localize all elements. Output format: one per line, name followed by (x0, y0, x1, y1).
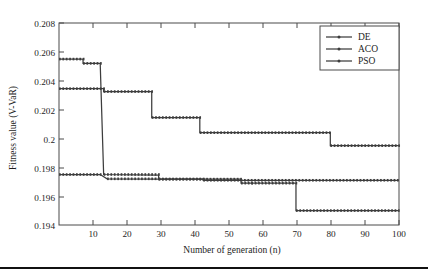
series-marker-dot-icon (79, 87, 81, 90)
series-marker-dot-icon (62, 87, 64, 90)
series-marker-dot-icon (295, 131, 297, 134)
series-marker-dot-icon (141, 178, 143, 181)
series-marker-dot-icon (312, 179, 314, 182)
series-marker-dot-icon (134, 173, 136, 176)
series-marker-dot-icon (261, 131, 263, 134)
series-marker-dot-icon (186, 178, 188, 181)
series-marker-dot-icon (347, 144, 349, 147)
series-marker-dot-icon (86, 87, 88, 90)
series-marker-dot-icon (114, 178, 116, 181)
series-marker-dot-icon (360, 179, 362, 182)
series-marker-dot-icon (378, 209, 380, 212)
series-marker-dot-icon (69, 173, 71, 176)
series-marker-dot-icon (93, 173, 95, 176)
series-marker-dot-icon (392, 144, 394, 147)
series-marker-dot-icon (96, 173, 98, 176)
series-marker-dot-icon (268, 131, 270, 134)
y-tick-label: 0.204 (34, 77, 55, 87)
series-marker-dot-icon (155, 178, 157, 181)
series-marker-dot-icon (196, 116, 198, 119)
series-marker-dot-icon (336, 179, 338, 182)
series-marker-dot-icon (384, 209, 386, 212)
y-tick-label: 0.198 (34, 164, 55, 174)
series-marker-dot-icon (117, 173, 119, 176)
y-tick-label: 0.2 (44, 135, 56, 145)
series-marker-dot-icon (230, 178, 232, 181)
series-marker-dot-icon (346, 179, 348, 182)
series-marker-dot-icon (329, 179, 331, 182)
series-marker-dot-icon (151, 173, 153, 176)
x-tick-label: 50 (224, 229, 234, 239)
series-marker-dot-icon (107, 178, 109, 181)
series-marker-dot-icon (73, 87, 75, 90)
series-marker-dot-icon (391, 209, 393, 212)
x-tick-label: 70 (292, 229, 302, 239)
series-marker-dot-icon (73, 173, 75, 176)
series-marker-dot-icon (76, 173, 78, 176)
series-marker-dot-icon (76, 58, 78, 61)
y-tick-label: 0.196 (34, 193, 55, 203)
series-marker-dot-icon (388, 144, 390, 147)
series-marker-dot-icon (90, 173, 92, 176)
series-marker-dot-icon (288, 131, 290, 134)
series-marker-dot-icon (305, 131, 307, 134)
series-marker-dot-icon (244, 179, 246, 182)
series-marker-dot-icon (326, 131, 328, 134)
y-tick-marks (59, 23, 64, 197)
series-marker-dot-icon (309, 131, 311, 134)
series-marker-dot-icon (377, 179, 379, 182)
series-marker-dot-icon (159, 178, 161, 181)
series-marker-dot-icon (268, 182, 270, 185)
series-marker-dot-icon (83, 87, 85, 90)
x-tick-label: 10 (88, 229, 98, 239)
series-marker-dot-icon (127, 178, 129, 181)
series-marker-dot-icon (248, 182, 250, 185)
y-tick-label: 0.194 (34, 221, 55, 231)
data-series-layer (59, 58, 400, 212)
series-marker-dot-icon (165, 116, 167, 119)
series-marker-dot-icon (255, 182, 257, 185)
series-marker-dot-icon (210, 178, 212, 181)
series-markers-de (59, 58, 399, 182)
series-marker-dot-icon (296, 209, 298, 212)
series-marker-dot-icon (86, 173, 88, 176)
series-marker-dot-icon (227, 178, 229, 181)
series-marker-dot-icon (343, 179, 345, 182)
series-marker-dot-icon (278, 179, 280, 182)
series-marker-dot-icon (381, 209, 383, 212)
series-marker-dot-icon (368, 144, 370, 147)
series-marker-dot-icon (230, 131, 232, 134)
series-marker-dot-icon (299, 209, 301, 212)
series-marker-dot-icon (322, 131, 324, 134)
series-markers-aco (59, 87, 400, 147)
series-marker-dot-icon (371, 209, 373, 212)
series-marker-dot-icon (272, 182, 274, 185)
series-marker-dot-icon (224, 131, 226, 134)
series-marker-dot-icon (397, 179, 399, 182)
page-footer-rule (0, 267, 428, 269)
series-marker-dot-icon (357, 209, 359, 212)
series-marker-dot-icon (303, 209, 305, 212)
series-marker-dot-icon (254, 131, 256, 134)
series-marker-dot-icon (240, 178, 242, 181)
series-marker-dot-icon (319, 131, 321, 134)
series-marker-dot-icon (261, 179, 263, 182)
series-marker-dot-icon (366, 179, 368, 182)
series-marker-dot-icon (141, 90, 143, 93)
series-marker-dot-icon (364, 144, 366, 147)
series-marker-dot-icon (353, 179, 355, 182)
series-marker-dot-icon (79, 58, 81, 61)
series-marker-dot-icon (373, 179, 375, 182)
series-marker-dot-icon (172, 178, 174, 181)
series-marker-dot-icon (220, 178, 222, 181)
series-marker-dot-icon (339, 179, 341, 182)
series-marker-dot-icon (361, 209, 363, 212)
series-marker-dot-icon (288, 179, 290, 182)
legend[interactable]: DE ACO PSO (320, 26, 399, 70)
series-marker-dot-icon (141, 173, 143, 176)
series-marker-dot-icon (363, 179, 365, 182)
series-marker-dot-icon (282, 182, 284, 185)
series-marker-dot-icon (107, 90, 109, 93)
series-marker-dot-icon (326, 179, 328, 182)
series-marker-dot-icon (169, 116, 171, 119)
